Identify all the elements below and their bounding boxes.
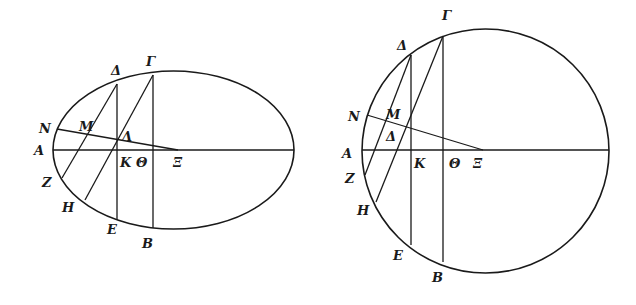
label-z: Z bbox=[41, 175, 52, 190]
label-b: B bbox=[431, 270, 443, 285]
label-xi: Ξ bbox=[172, 155, 183, 170]
label-n: N bbox=[347, 109, 361, 124]
label-xi: Ξ bbox=[472, 156, 483, 171]
label-z: Z bbox=[344, 171, 355, 186]
label-k: K bbox=[413, 156, 426, 171]
label-a: A bbox=[32, 143, 44, 158]
circle-curve bbox=[362, 29, 609, 273]
label-delta-2: Δ bbox=[385, 129, 396, 144]
label-b: B bbox=[141, 236, 153, 251]
label-lambda: Λ bbox=[120, 129, 132, 144]
label-theta: Θ bbox=[136, 155, 148, 170]
label-e: E bbox=[392, 248, 404, 263]
label-theta: Θ bbox=[449, 156, 461, 171]
label-m: M bbox=[385, 107, 401, 122]
circle-figure: Δ Γ N M Δ A K Θ Ξ Z H E B bbox=[340, 8, 609, 285]
label-gamma: Γ bbox=[441, 8, 452, 23]
line-gamma-h bbox=[85, 75, 153, 200]
label-n: N bbox=[38, 121, 52, 136]
label-delta: Δ bbox=[396, 38, 407, 53]
label-h: H bbox=[356, 203, 370, 218]
label-h: H bbox=[61, 200, 75, 215]
line-n-xi bbox=[367, 115, 483, 150]
label-gamma: Γ bbox=[145, 54, 156, 69]
ellipse-figure: Δ Γ N M Λ A K Θ Ξ Z H E B bbox=[32, 54, 294, 251]
label-a: A bbox=[340, 146, 352, 161]
label-e: E bbox=[106, 222, 118, 237]
label-m: M bbox=[78, 119, 94, 134]
label-k: K bbox=[119, 155, 132, 170]
label-delta: Δ bbox=[110, 63, 121, 78]
geometry-diagram: Δ Γ N M Λ A K Θ Ξ Z H E B Δ Γ N M Δ A K … bbox=[0, 0, 636, 305]
